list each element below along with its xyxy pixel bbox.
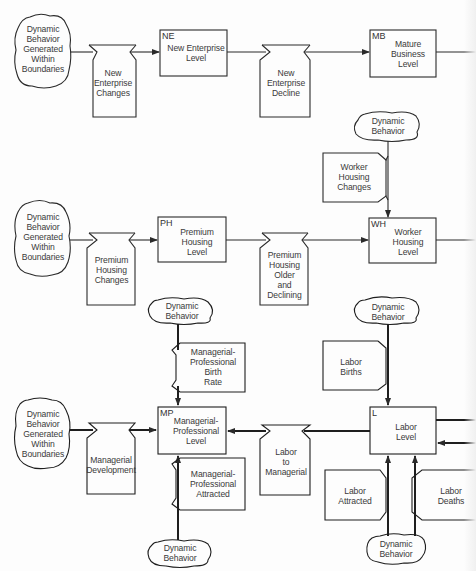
cloud-dynamic-behavior-mp-attracted: Dynamic Behavior xyxy=(150,543,210,563)
cloud-dynamic-behavior-labor-birth: Dynamic Behavior xyxy=(358,302,418,322)
level-new-enterprise[interactable]: New Enterprise Level xyxy=(164,43,228,63)
cloud-dynamic-behavior-mp-birth: Dynamic Behavior xyxy=(152,301,212,321)
level-labor[interactable]: Labor Level xyxy=(376,422,436,442)
rate-premium-housing-older-declining[interactable]: Premium Housing Older and Declining xyxy=(261,250,308,300)
rate-labor-attracted[interactable]: Labor Attracted xyxy=(330,486,380,506)
rate-new-enterprise-decline[interactable]: New Enterprise Decline xyxy=(262,68,310,98)
cloud-source-premium-housing: Dynamic Behavior Generated Within Bounda… xyxy=(15,212,71,262)
rate-premium-housing-changes[interactable]: Premium Housing Changes xyxy=(88,255,135,285)
rate-new-enterprise-changes[interactable]: New Enterprise Changes xyxy=(90,68,136,98)
rate-managerial-professional-attracted[interactable]: Managerial- Professional Attracted xyxy=(180,469,246,499)
cloud-source-new-enterprise: Dynamic Behavior Generated Within Bounda… xyxy=(15,24,71,74)
level-code-l: L xyxy=(372,408,377,418)
level-code-ne: NE xyxy=(162,31,175,41)
level-managerial-professional[interactable]: Managerial- Professional Level xyxy=(164,416,228,446)
level-worker-housing[interactable]: Worker Housing Level xyxy=(380,227,436,257)
cloud-dynamic-behavior-worker: Dynamic Behavior xyxy=(358,116,418,136)
rate-managerial-professional-birth-rate[interactable]: Managerial- Professional Birth Rate xyxy=(180,347,246,387)
page-edge-shadow xyxy=(464,0,476,571)
rate-managerial-development[interactable]: Managerial Development xyxy=(86,455,136,475)
level-premium-housing[interactable]: Premium Housing Level xyxy=(168,227,226,257)
cloud-dynamic-behavior-labor: Dynamic Behavior xyxy=(367,539,425,559)
rate-labor-births[interactable]: Labor Births xyxy=(326,357,376,377)
rate-worker-housing-changes[interactable]: Worker Housing Changes xyxy=(326,162,382,192)
cloud-source-managerial: Dynamic Behavior Generated Within Bounda… xyxy=(15,409,71,459)
rate-labor-to-managerial[interactable]: Labor to Managerial xyxy=(262,447,310,477)
level-mature-business[interactable]: Mature Business Level xyxy=(380,39,436,69)
